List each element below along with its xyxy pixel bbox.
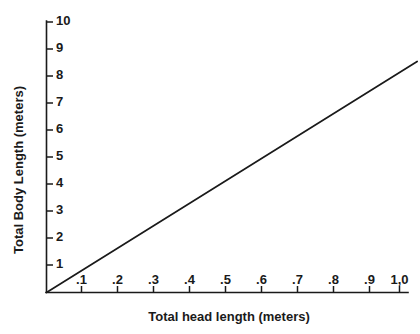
data-series-group [47, 62, 418, 293]
x-tick-label: .3 [148, 272, 159, 287]
x-tick-label: .7 [292, 272, 303, 287]
x-tick-label: .5 [220, 272, 231, 287]
x-tick-label: .2 [112, 272, 123, 287]
y-tick-label: 2 [56, 229, 63, 244]
series-line-body-vs-head [47, 62, 418, 293]
x-tick-label: .1 [76, 272, 87, 287]
x-tick-label: .4 [184, 272, 196, 287]
x-tick-label: .8 [328, 272, 339, 287]
y-tick-label: 10 [56, 13, 70, 28]
y-tick-label: 8 [56, 67, 63, 82]
x-axis-ticks: .1 .2 .3 .4 .5 .6 .7 .8 .9 1,0 [76, 272, 408, 292]
chart-figure: 10 9 8 7 6 5 4 3 2 1 .1 .2 [0, 0, 420, 334]
x-axis-title: Total head length (meters) [148, 309, 310, 324]
chart-plot-area: 10 9 8 7 6 5 4 3 2 1 .1 .2 [0, 0, 420, 334]
y-tick-label: 5 [56, 148, 63, 163]
y-tick-label: 7 [56, 94, 63, 109]
x-tick-label: .9 [364, 272, 375, 287]
y-tick-label: 4 [56, 175, 64, 190]
y-tick-label: 9 [56, 40, 63, 55]
axes-group [46, 21, 408, 293]
x-tick-label: .6 [256, 272, 267, 287]
y-tick-label: 6 [56, 121, 63, 136]
y-axis-title: Total Body Length (meters) [11, 86, 26, 254]
y-tick-label: 1 [56, 256, 63, 271]
x-tick-label: 1,0 [390, 272, 408, 287]
y-axis-ticks: 10 9 8 7 6 5 4 3 2 1 [46, 13, 70, 271]
y-tick-label: 3 [56, 202, 63, 217]
